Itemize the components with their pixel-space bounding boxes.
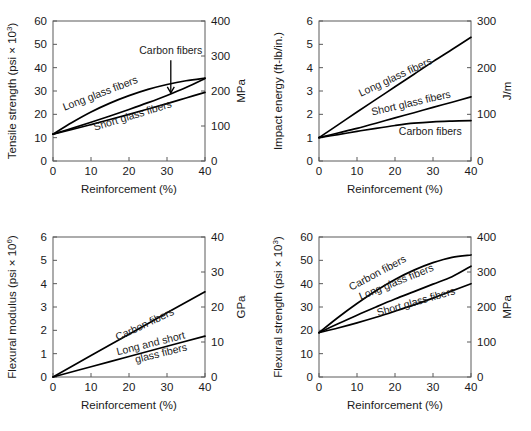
- y-tick-label-right: 0: [211, 155, 217, 167]
- y-tick-label-right: 100: [211, 120, 230, 132]
- y-tick-label-right: 40: [211, 231, 224, 243]
- x-tick-label: 40: [465, 165, 478, 177]
- x-axis-title: Reinforcement (%): [81, 399, 177, 411]
- y-tick-label-left: 40: [34, 62, 47, 74]
- y-tick-label-right: 10: [211, 336, 224, 348]
- y-tick-label-left: 2: [41, 324, 47, 336]
- x-tick-label: 30: [427, 165, 440, 177]
- y-tick-label-right: 30: [211, 266, 224, 278]
- y-tick-label-right: 200: [211, 85, 230, 97]
- y-axis-title-right: GPa: [235, 295, 247, 319]
- multi-panel-figure: 01020304001020304050600100200300400Reinf…: [0, 0, 531, 431]
- chart-panel-flexural-modulus: 0102030400123456010203040Reinforcement (…: [0, 216, 265, 431]
- x-tick-label: 40: [199, 381, 212, 393]
- y-tick-label-left: 10: [300, 348, 313, 360]
- chart-panel-flexural-strength: 01020304001020304050600100200300400Reinf…: [266, 216, 531, 431]
- y-tick-label-left: 40: [300, 278, 313, 290]
- y-tick-label-left: 20: [34, 108, 47, 120]
- y-axis-title-left: Tensile strength (psi × 103): [5, 23, 18, 160]
- y-tick-label-left: 3: [41, 301, 47, 313]
- y-axis-title-left: Flexural strength (psi × 103): [271, 236, 284, 378]
- y-tick-label-right: 300: [477, 15, 496, 27]
- series-label: Short glass fibers: [92, 97, 173, 132]
- y-tick-label-left: 30: [300, 301, 313, 313]
- chart-panel-impact-energy: 01020304001234560100200300Reinforcement …: [266, 0, 531, 215]
- x-tick-label: 0: [50, 381, 56, 393]
- x-tick-label: 10: [85, 381, 98, 393]
- x-tick-label: 20: [123, 165, 136, 177]
- x-axis-title: Reinforcement (%): [81, 183, 177, 195]
- y-tick-label-left: 20: [300, 324, 313, 336]
- y-tick-label-left: 10: [34, 132, 47, 144]
- y-tick-label-right: 0: [477, 155, 483, 167]
- y-axis-title-left: Impact energy (ft-lb/in.): [272, 32, 284, 150]
- y-tick-label-left: 50: [300, 254, 313, 266]
- y-tick-label-left: 50: [34, 38, 47, 50]
- y-tick-label-right: 0: [477, 371, 483, 383]
- y-axis-title-right: J/m: [501, 82, 513, 101]
- y-tick-label-right: 200: [477, 62, 496, 74]
- x-tick-label: 0: [316, 165, 322, 177]
- x-tick-label: 40: [199, 165, 212, 177]
- x-tick-label: 10: [351, 381, 364, 393]
- y-tick-label-left: 6: [41, 231, 47, 243]
- y-tick-label-left: 1: [41, 348, 47, 360]
- y-tick-label-left: 0: [307, 155, 313, 167]
- x-tick-label: 40: [465, 381, 478, 393]
- x-tick-label: 0: [50, 165, 56, 177]
- y-tick-label-left: 0: [307, 371, 313, 383]
- x-tick-label: 30: [427, 381, 440, 393]
- y-axis-title-right: MPa: [501, 295, 513, 319]
- y-tick-label-left: 30: [34, 85, 47, 97]
- y-tick-label-left: 5: [307, 38, 313, 50]
- y-tick-label-left: 6: [307, 15, 313, 27]
- x-axis-title: Reinforcement (%): [347, 183, 443, 195]
- y-tick-label-right: 100: [477, 336, 496, 348]
- y-axis-title-right: MPa: [235, 79, 247, 103]
- x-tick-label: 10: [85, 165, 98, 177]
- y-tick-label-left: 60: [300, 231, 313, 243]
- series-label: Long glass fibers: [357, 54, 434, 98]
- x-tick-label: 30: [161, 165, 174, 177]
- y-tick-label-left: 60: [34, 15, 47, 27]
- x-tick-label: 30: [161, 381, 174, 393]
- y-tick-label-left: 3: [307, 85, 313, 97]
- x-tick-label: 20: [123, 381, 136, 393]
- x-tick-label: 20: [389, 165, 402, 177]
- x-axis-title: Reinforcement (%): [347, 399, 443, 411]
- annotation-label: Carbon fibers: [139, 44, 202, 56]
- y-tick-label-right: 300: [477, 266, 496, 278]
- y-tick-label-right: 20: [211, 301, 224, 313]
- y-tick-label-left: 0: [41, 371, 47, 383]
- y-tick-label-left: 0: [41, 155, 47, 167]
- y-tick-label-right: 0: [211, 371, 217, 383]
- y-tick-label-right: 300: [211, 50, 230, 62]
- y-tick-label-left: 5: [41, 254, 47, 266]
- y-tick-label-left: 4: [307, 62, 314, 74]
- y-tick-label-left: 1: [307, 132, 313, 144]
- y-tick-label-right: 200: [477, 301, 496, 313]
- y-tick-label-right: 400: [477, 231, 496, 243]
- chart-panel-tensile-strength: 01020304001020304050600100200300400Reinf…: [0, 0, 265, 215]
- y-tick-label-left: 2: [307, 108, 313, 120]
- x-tick-label: 0: [316, 381, 322, 393]
- x-tick-label: 20: [389, 381, 402, 393]
- y-tick-label-right: 400: [211, 15, 230, 27]
- series-label: Carbon fibers: [399, 125, 462, 137]
- y-axis-title-left: Flexural modulus (psi × 106): [5, 235, 18, 379]
- x-tick-label: 10: [351, 165, 364, 177]
- y-tick-label-left: 4: [41, 278, 48, 290]
- plot-frame: [53, 21, 205, 161]
- y-tick-label-right: 100: [477, 108, 496, 120]
